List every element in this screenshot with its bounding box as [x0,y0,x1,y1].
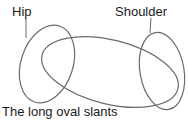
shoulder-leader-line [150,18,151,33]
hip-label: Hip [12,5,32,18]
hip-oval [10,18,84,110]
shoulder-oval [134,29,188,113]
caption: The long oval slants [2,105,118,118]
shoulder-label: Shoulder [115,5,167,18]
